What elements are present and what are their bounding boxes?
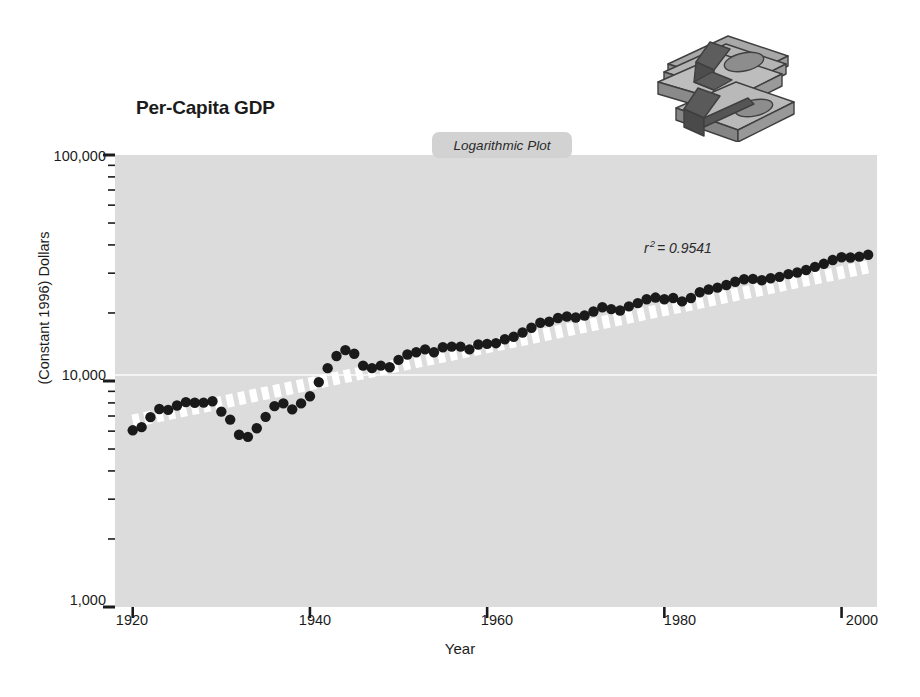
data-point xyxy=(429,347,439,357)
data-point xyxy=(765,273,775,283)
data-point xyxy=(455,341,465,351)
data-point xyxy=(349,349,359,359)
data-point xyxy=(402,349,412,359)
data-point xyxy=(163,405,173,415)
plot-canvas xyxy=(115,155,877,607)
data-point xyxy=(509,332,519,342)
data-point xyxy=(181,397,191,407)
data-point xyxy=(571,312,581,322)
data-point xyxy=(296,398,306,408)
data-point xyxy=(172,400,182,410)
x-axis-tick-label: 1940 xyxy=(299,612,331,628)
data-point xyxy=(464,344,474,354)
data-point xyxy=(376,360,386,370)
data-point xyxy=(703,284,713,294)
data-point xyxy=(863,250,873,260)
data-point xyxy=(243,432,253,442)
data-point xyxy=(252,423,262,433)
data-point xyxy=(393,355,403,365)
data-point-markers xyxy=(128,250,874,443)
data-point xyxy=(482,339,492,349)
chart-figure: Per-Capita GDP xyxy=(0,0,920,697)
y-axis-tick-label: 10,000 xyxy=(62,367,106,383)
data-point xyxy=(500,334,510,344)
data-point xyxy=(739,274,749,284)
data-point xyxy=(305,391,315,401)
data-point xyxy=(668,293,678,303)
page-title: Per-Capita GDP xyxy=(136,97,275,119)
x-axis-tick-label: 1960 xyxy=(481,612,513,628)
data-point xyxy=(473,339,483,349)
r-squared-exponent: 2 xyxy=(649,238,657,249)
data-point xyxy=(420,344,430,354)
r-squared-annotation: r2= 0.9541 xyxy=(644,238,712,256)
y-axis-title: (Constant 1996) Dollars xyxy=(36,178,52,438)
data-point xyxy=(677,296,687,306)
data-point xyxy=(269,401,279,411)
data-point xyxy=(128,425,138,435)
data-point xyxy=(553,313,563,323)
data-point xyxy=(712,282,722,292)
data-point xyxy=(225,414,235,424)
data-point xyxy=(517,327,527,337)
data-point xyxy=(757,275,767,285)
data-point xyxy=(562,311,572,321)
data-point xyxy=(234,430,244,440)
y-axis-tick-label: 1,000 xyxy=(70,592,106,608)
data-point xyxy=(278,398,288,408)
data-point xyxy=(136,422,146,432)
data-point xyxy=(198,397,208,407)
data-point xyxy=(624,301,634,311)
data-point xyxy=(792,267,802,277)
data-point xyxy=(154,404,164,414)
r-squared-value: = 0.9541 xyxy=(657,240,712,256)
x-axis-tick-label: 1920 xyxy=(116,612,148,628)
data-point xyxy=(836,252,846,262)
data-point xyxy=(641,294,651,304)
data-point xyxy=(615,305,625,315)
data-point xyxy=(190,398,200,408)
data-point xyxy=(695,287,705,297)
data-point xyxy=(650,292,660,302)
data-point xyxy=(447,341,457,351)
stack-of-cash-clipart xyxy=(636,22,808,142)
data-point xyxy=(659,294,669,304)
data-point xyxy=(801,265,811,275)
data-point xyxy=(411,347,421,357)
plot-type-badge: Logarithmic Plot xyxy=(432,132,572,158)
data-point xyxy=(526,323,536,333)
data-point xyxy=(606,304,616,314)
data-point xyxy=(340,345,350,355)
data-point xyxy=(721,280,731,290)
data-point xyxy=(748,274,758,284)
data-point xyxy=(810,262,820,272)
data-point xyxy=(491,338,501,348)
data-point xyxy=(287,404,297,414)
data-point xyxy=(588,306,598,316)
data-point xyxy=(774,272,784,282)
data-point xyxy=(384,362,394,372)
data-point xyxy=(854,251,864,261)
data-point xyxy=(633,298,643,308)
data-point xyxy=(544,316,554,326)
data-point xyxy=(331,351,341,361)
x-axis-title: Year xyxy=(0,640,920,657)
data-point xyxy=(207,396,217,406)
data-point xyxy=(845,252,855,262)
x-axis-tick-label: 1980 xyxy=(664,612,696,628)
x-axis-tick-label: 2000 xyxy=(846,612,878,628)
data-point xyxy=(783,269,793,279)
data-point xyxy=(438,342,448,352)
data-point xyxy=(358,360,368,370)
y-axis-tick-label: 100,000 xyxy=(54,148,106,164)
data-point xyxy=(260,412,270,422)
data-point xyxy=(686,293,696,303)
y-axis-tick-labels: 100,00010,0001,000 xyxy=(0,0,106,697)
data-point xyxy=(828,255,838,265)
data-point xyxy=(322,363,332,373)
data-point xyxy=(819,259,829,269)
data-point xyxy=(216,406,226,416)
data-point xyxy=(730,277,740,287)
data-point xyxy=(597,302,607,312)
data-point xyxy=(367,363,377,373)
